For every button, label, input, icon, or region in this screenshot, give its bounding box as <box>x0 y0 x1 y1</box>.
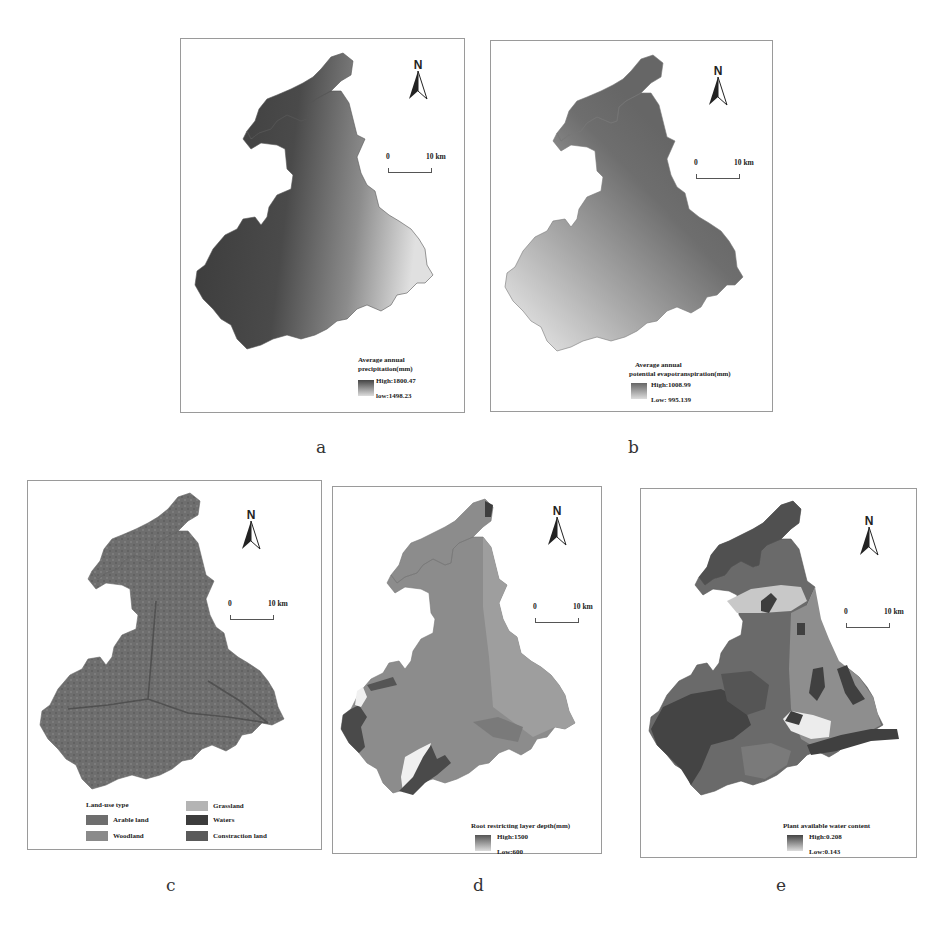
north-arrow-icon <box>407 71 429 101</box>
scale-bar-e: 0 10 km <box>844 607 914 637</box>
legend-c: Land-use type Arable land Woodland Grass… <box>86 801 321 849</box>
figure-caption <box>60 910 900 925</box>
watershed-shape-a <box>195 53 433 349</box>
legend-color-ramp <box>631 383 647 399</box>
legend-item-grassland: Grassland <box>186 801 244 811</box>
scale-start: 0 <box>844 607 848 616</box>
pawc-zone-south-mid <box>741 743 791 779</box>
north-label: N <box>542 505 572 517</box>
soil-zone-east <box>483 537 575 737</box>
pawc-zone-tiny-patch <box>797 623 805 635</box>
legend-b: Average annual potential evapotranspirat… <box>629 361 774 411</box>
watershed-map-c <box>28 481 323 851</box>
legend-title: Land-use type <box>86 801 129 809</box>
map-panel-a: N 0 10 km Average annual precipitation(m… <box>180 38 465 413</box>
scale-start: 0 <box>694 158 698 167</box>
north-arrow-d: N <box>542 505 572 551</box>
legend-item-arable-land: Arable land <box>86 815 149 825</box>
legend-high: High:1800.47 <box>376 377 416 386</box>
scale-end: 10 km <box>268 599 288 608</box>
scale-bar-line <box>846 623 890 628</box>
legend-item-label: Woodland <box>113 832 144 840</box>
legend-title-line2: precipitation(mm) <box>358 365 413 374</box>
legend-title-line2: potential evapotranspiration(mm) <box>629 370 731 379</box>
north-arrow-icon <box>707 77 729 107</box>
scale-bar-line <box>696 174 740 179</box>
watershed-shape-d <box>341 499 575 793</box>
legend-color-ramp <box>787 835 803 851</box>
legend-e: Plant available water content High:0.208… <box>783 822 916 857</box>
legend-d: Root restricting layer depth(mm) High:15… <box>471 822 601 857</box>
scale-bar-a: 0 10 km <box>386 152 456 182</box>
legend-item-label: Constraction land <box>213 832 267 840</box>
north-arrow-e: N <box>854 515 884 561</box>
legend-low: Low:600 <box>497 848 523 857</box>
scale-bar-line <box>388 168 432 173</box>
north-label: N <box>403 59 433 71</box>
scale-start: 0 <box>533 602 537 611</box>
scale-bar-c: 0 10 km <box>228 599 298 629</box>
panel-label-a: a <box>316 437 326 457</box>
scale-bar-line <box>535 618 579 623</box>
legend-swatch <box>186 831 208 841</box>
legend-low: Low:0.143 <box>809 848 840 857</box>
map-panel-e: N 0 10 km Plant available water content … <box>640 488 917 858</box>
legend-low: Low: 995.139 <box>651 396 691 405</box>
legend-swatch <box>186 801 208 811</box>
legend-swatch <box>86 815 108 825</box>
scale-bar-b: 0 10 km <box>694 158 764 188</box>
north-label: N <box>236 509 266 521</box>
panel-label-b: b <box>628 437 639 457</box>
north-arrow-c: N <box>236 509 266 555</box>
map-panel-d: N 0 10 km Root restricting layer depth(m… <box>332 486 602 854</box>
legend-title-line1: Plant available water content <box>783 822 870 831</box>
north-arrow-b: N <box>703 65 733 111</box>
scale-start: 0 <box>228 599 232 608</box>
scale-end: 10 km <box>734 158 754 167</box>
map-panel-b: N 0 10 km Average annual potential evapo… <box>490 40 773 412</box>
scale-bar-line <box>230 615 274 620</box>
legend-title-line1: Average annual <box>358 356 405 365</box>
scale-end: 10 km <box>426 152 446 161</box>
scale-end: 10 km <box>884 607 904 616</box>
legend-title-line1: Average annual <box>635 361 682 370</box>
legend-low: low:1498.23 <box>376 392 412 401</box>
legend-a: Average annual precipitation(mm) High:18… <box>356 356 466 411</box>
scale-end: 10 km <box>573 602 593 611</box>
north-arrow-a: N <box>403 59 433 105</box>
legend-item-label: Arable land <box>113 816 149 824</box>
north-label: N <box>703 65 733 77</box>
legend-color-ramp <box>358 380 374 396</box>
legend-color-ramp <box>475 835 491 851</box>
panel-label-d: d <box>473 875 484 895</box>
legend-high: High:1008.99 <box>651 381 691 390</box>
legend-swatch <box>186 815 208 825</box>
legend-title-line1: Root restricting layer depth(mm) <box>471 822 570 831</box>
scale-start: 0 <box>386 152 390 161</box>
legend-item-woodland: Woodland <box>86 831 144 841</box>
legend-item-label: Grassland <box>213 802 244 810</box>
panel-label-e: e <box>776 875 786 895</box>
legend-high: High:0.208 <box>809 833 842 842</box>
panel-label-c: c <box>166 875 176 895</box>
map-panel-c: N 0 10 km Land-use type Arable land Wood… <box>27 480 322 850</box>
legend-high: High:1500 <box>497 833 528 842</box>
legend-item-waters: Waters <box>186 815 234 825</box>
legend-item-construction-land: Constraction land <box>186 831 267 841</box>
legend-swatch <box>86 831 108 841</box>
scale-bar-d: 0 10 km <box>533 602 603 632</box>
north-arrow-icon <box>240 521 262 551</box>
north-arrow-icon <box>858 527 880 557</box>
north-arrow-icon <box>546 517 568 547</box>
north-label: N <box>854 515 884 527</box>
legend-item-label: Waters <box>213 816 234 824</box>
